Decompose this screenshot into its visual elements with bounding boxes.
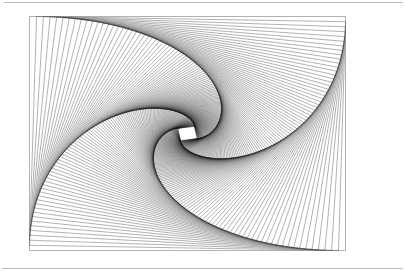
whirl-quad-128 xyxy=(176,125,198,141)
whirl-quad-102 xyxy=(164,116,210,150)
whirl-figure xyxy=(0,0,405,271)
page-canvas xyxy=(0,0,405,271)
whirl-quad-15 xyxy=(43,26,332,240)
whirl-quad-9 xyxy=(35,20,341,247)
whirl-quad-131 xyxy=(178,126,198,141)
whirl-quad-24 xyxy=(60,39,315,228)
whirl-quad-55 xyxy=(129,90,247,177)
whirl-quad-46 xyxy=(110,76,266,191)
whirl-quad-33 xyxy=(80,54,295,213)
whirl-quad-45 xyxy=(107,74,267,193)
whirl-quad-53 xyxy=(125,87,251,180)
whirl-quad-88 xyxy=(158,112,217,156)
bottom-horizontal-rule xyxy=(2,268,403,269)
whirl-quad-31 xyxy=(76,51,300,217)
whirl-quad-30 xyxy=(73,49,301,218)
whirl-quad-14 xyxy=(41,25,333,242)
whirl-quad-36 xyxy=(87,59,288,208)
whirl-quad-17 xyxy=(46,29,328,238)
whirl-quad-130 xyxy=(177,126,198,141)
whirl-quad-4 xyxy=(30,17,344,250)
whirl-quad-32 xyxy=(78,52,297,214)
whirl-quad-6 xyxy=(32,18,344,249)
whirl-quad-27 xyxy=(67,44,309,223)
whirl-quad-16 xyxy=(45,28,331,240)
whirl-quad-39 xyxy=(94,64,281,203)
whirl-quad-38 xyxy=(92,63,284,205)
whirl-quad-26 xyxy=(64,42,310,224)
whirl-quad-50 xyxy=(118,82,256,185)
whirl-line-group xyxy=(30,17,346,251)
whirl-quad-29 xyxy=(71,47,304,219)
whirl-quad-25 xyxy=(62,41,313,227)
whirl-quad-49 xyxy=(116,81,259,187)
whirl-quad-47 xyxy=(112,77,263,189)
whirl-quad-132 xyxy=(178,126,197,140)
whirl-quad-23 xyxy=(58,38,317,230)
whirl-quad-96 xyxy=(161,114,213,153)
whirl-quad-35 xyxy=(85,57,291,209)
whirl-quad-22 xyxy=(56,36,319,231)
whirl-quad-94 xyxy=(160,113,214,153)
whirl-quad-19 xyxy=(50,32,325,236)
whirl-quad-85 xyxy=(157,111,219,157)
whirl-quad-37 xyxy=(89,61,285,206)
whirl-quad-51 xyxy=(120,84,254,183)
